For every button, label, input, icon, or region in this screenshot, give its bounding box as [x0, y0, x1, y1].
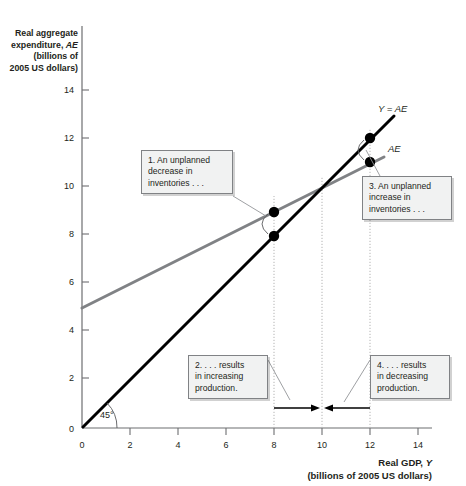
- x-axis-title-main: Real GDP,: [378, 457, 425, 468]
- y-axis-ticks: [82, 90, 89, 378]
- y-tick-0: 0: [69, 424, 74, 434]
- callout-unplanned-decrease: 1. An unplanned decrease in inventories …: [141, 150, 233, 194]
- callout-increasing-production: 2. . . . results in increasing productio…: [188, 355, 268, 399]
- series-label-y-equals-ae: Y = AE: [378, 103, 408, 114]
- leader-callout-4: [344, 360, 370, 402]
- increase-production-arrow: [274, 404, 320, 411]
- y-axis-tick-labels: 14 12 10 8 6 4 2 0: [64, 85, 74, 434]
- x-tick-0: 0: [79, 440, 84, 450]
- angle-label: 45°: [100, 410, 114, 420]
- data-point-y-at-12: [365, 133, 375, 143]
- y-tick-2: 2: [69, 373, 74, 383]
- y-tick-8: 8: [69, 229, 74, 239]
- x-axis-tick-labels: 0 2 4 6 8 10 12 14: [79, 440, 423, 450]
- x-tick-4: 4: [175, 440, 180, 450]
- y-axis-title-line1: Real aggregate: [15, 28, 78, 38]
- y-axis-title-line4: 2005 US dollars): [10, 63, 78, 73]
- expenditure-chart-figure: Real aggregate expenditure, AE (billions…: [0, 0, 466, 486]
- y-tick-6: 6: [69, 277, 74, 287]
- callout-unplanned-increase: 3. An unplanned increase in inventories …: [362, 176, 452, 220]
- x-axis-title: Real GDP, Y: [378, 457, 433, 468]
- leader-callout-1: [233, 196, 266, 216]
- y-tick-12: 12: [64, 133, 74, 143]
- y-tick-10: 10: [64, 181, 74, 191]
- x-tick-12: 12: [365, 440, 375, 450]
- y-axis-title-line2: expenditure, AE: [11, 40, 78, 50]
- series-label-ae: AE: [387, 143, 401, 154]
- x-axis-title-y: Y: [426, 457, 434, 468]
- x-tick-2: 2: [127, 440, 132, 450]
- x-tick-10: 10: [317, 440, 327, 450]
- y-axis-title: Real aggregate expenditure, AE (billions…: [0, 28, 78, 74]
- y-tick-4: 4: [69, 325, 74, 335]
- y-axis-title-ae: AE: [66, 40, 78, 50]
- y-tick-14: 14: [64, 85, 74, 95]
- x-tick-6: 6: [223, 440, 228, 450]
- x-tick-14: 14: [413, 440, 423, 450]
- x-axis-ticks: [130, 428, 418, 435]
- decrease-production-arrow: [324, 404, 370, 411]
- data-point-y-at-8: [269, 231, 279, 241]
- x-tick-8: 8: [271, 440, 276, 450]
- ae-line: [82, 157, 384, 308]
- y-axis-title-line3: (billions of: [34, 51, 78, 61]
- callout-decreasing-production: 4. . . . results in decreasing productio…: [370, 355, 450, 399]
- data-point-ae-at-8: [269, 207, 279, 217]
- x-axis-subtitle: (billions of 2005 US dollars): [307, 470, 432, 481]
- leader-callout-2: [268, 360, 290, 400]
